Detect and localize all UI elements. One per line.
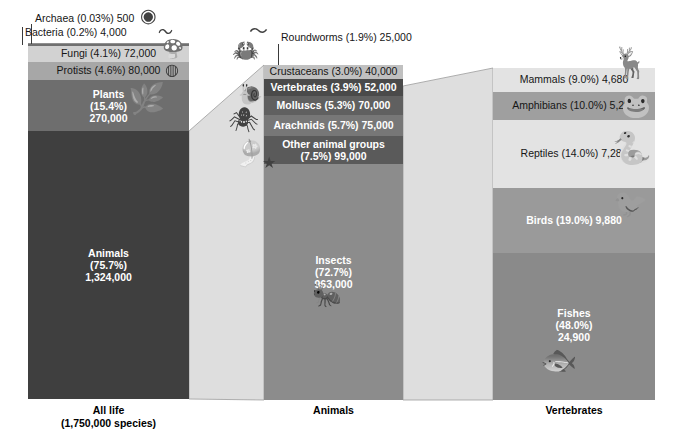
caption-all-life: All life (1,750,000 species) xyxy=(28,404,189,430)
callout-archaea-label: Archaea (0.03%) 500 xyxy=(35,12,134,24)
band-insects-label-line1: Insects xyxy=(315,254,351,266)
infographic-canvas: Fungi (4.1%) 72,000 Protists (4.6%) 80,0… xyxy=(0,0,673,447)
crab-crustacean-art: 🦀 xyxy=(232,40,259,62)
antelope-mammal-art: 🦌 xyxy=(612,48,649,78)
band-animals: Animals (75.7%) 1,324,000 xyxy=(28,131,189,399)
band-plants-label-line2: (15.4%) xyxy=(90,100,127,112)
band-fishes-label-line2: (48.0%) xyxy=(556,319,593,331)
band-protists-label: Protists (4.6%) 80,000 xyxy=(57,65,161,77)
callout-bacteria: Bacteria (0.2%) 4,000 xyxy=(25,26,127,38)
band-animals-label-line2: (75.7%) xyxy=(90,259,127,271)
plant-leaf-art: 🌿 xyxy=(128,84,165,114)
band-molluscs: Molluscs (5.3%) 70,000 xyxy=(264,96,403,115)
caption-vertebrates-line1: Vertebrates xyxy=(493,404,655,417)
protist-art: ◍ xyxy=(165,62,179,78)
band-fishes: Fishes (48.0%) 24,900 xyxy=(493,253,655,400)
band-molluscs-label: Molluscs (5.3%) 70,000 xyxy=(277,100,391,112)
band-arachnids-label: Arachnids (5.7%) 75,000 xyxy=(273,120,393,132)
band-other-animal-groups: Other animal groups (7.5%) 99,000 xyxy=(264,136,403,164)
leader-roundworms xyxy=(278,44,279,65)
band-birds-label: Birds (19.0%) 9,880 xyxy=(526,215,622,227)
band-animals-label-line1: Animals xyxy=(88,247,129,259)
frog-amphibian-art: 🐸 xyxy=(621,94,651,118)
callout-roundworms-label: Roundworms (1.9%) 25,000 xyxy=(281,31,412,43)
connector-wedge-vertebrates xyxy=(403,68,493,400)
starfish-art: ★ xyxy=(262,155,276,171)
band-insects-label-line2: (72.7%) xyxy=(315,266,352,278)
mushroom-fungi-art: 🍄 xyxy=(162,40,184,58)
archaea-microbe-art: ◉ xyxy=(140,6,157,25)
band-fishes-label-line3: 24,900 xyxy=(558,331,590,343)
callout-bacteria-label: Bacteria (0.2%) 4,000 xyxy=(25,26,127,38)
band-other-animal-groups-label-line1: Other animal groups xyxy=(282,138,385,150)
leader-bacteria xyxy=(22,27,23,45)
band-other-animal-groups-label-line2: (7.5%) 99,000 xyxy=(301,150,367,162)
band-vertebrates-label: Vertebrates (3.9%) 52,000 xyxy=(270,82,396,94)
band-fungi-label: Fungi (4.1%) 72,000 xyxy=(61,48,156,60)
callout-roundworms: Roundworms (1.9%) 25,000 xyxy=(281,31,412,43)
caption-animals-line1: Animals xyxy=(264,404,403,417)
callout-archaea: Archaea (0.03%) 500 xyxy=(35,12,134,24)
caption-animals: Animals xyxy=(264,404,403,417)
fish-art: 🐟 xyxy=(540,345,577,375)
band-vertebrates: Vertebrates (3.9%) 52,000 xyxy=(264,79,403,96)
caption-all-life-line1: All life xyxy=(28,404,189,417)
band-amphibians-label: Amphibians (10.0%) 5,200 xyxy=(512,100,636,112)
band-arachnids: Arachnids (5.7%) 75,000 xyxy=(264,115,403,136)
snail-mollusc-art: 🐌 xyxy=(238,84,263,104)
spider-arachnid-art: 🕷 xyxy=(228,108,258,132)
band-crustaceans-label: Crustaceans (3.0%) 40,000 xyxy=(270,66,398,78)
caption-vertebrates: Vertebrates xyxy=(493,404,655,417)
band-plants-label-line1: Plants xyxy=(93,88,125,100)
snake-reptile-art: 🐍 xyxy=(612,132,652,164)
band-crustaceans: Crustaceans (3.0%) 40,000 xyxy=(264,65,403,79)
band-animals-label-line3: 1,324,000 xyxy=(85,271,132,283)
caption-all-life-line2: (1,750,000 species) xyxy=(28,417,189,430)
bacteria-art: 〜 xyxy=(158,24,173,39)
bird-art: 🐦 xyxy=(613,190,648,218)
band-fishes-label-line1: Fishes xyxy=(557,307,590,319)
ant-insect-art: 🐜 xyxy=(312,283,342,307)
band-plants-label-line3: 270,000 xyxy=(90,112,128,124)
